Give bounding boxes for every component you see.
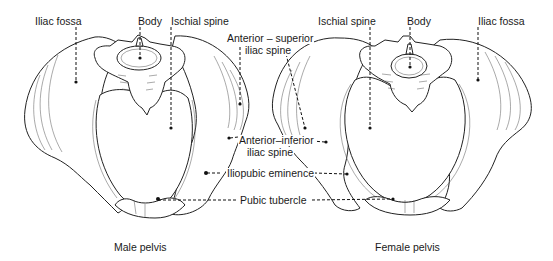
female-pelvis-drawing (272, 36, 531, 215)
female-iliac-fossa-label: Iliac fossa (477, 16, 526, 27)
female-pelvis-caption: Female pelvis (375, 241, 440, 253)
pubic-tubercle-label: Pubic tubercle (239, 195, 308, 206)
anterior-inferior-iliac-spine-label-line1: Anterior–inferior (238, 135, 315, 146)
anterior-inferior-iliac-spine-label-line2: iliac spine (246, 147, 294, 158)
female-body-label: Body (406, 16, 432, 27)
female-ischial-spine-label: Ischial spine (317, 16, 377, 27)
pelvis-diagram: Iliac fossa Body Ischial spine Anterior … (0, 0, 553, 261)
male-ischial-spine-label: Ischial spine (170, 16, 230, 27)
male-body-label: Body (137, 16, 163, 27)
iliopubic-eminence-label: Iliopubic eminence (226, 168, 315, 179)
male-iliac-fossa-label: Iliac fossa (34, 16, 83, 27)
anterior-superior-iliac-spine-label-line2: iliac spine (244, 45, 292, 56)
male-pelvis-caption: Male pelvis (114, 241, 167, 253)
male-pelvis-drawing (25, 35, 249, 218)
anterior-superior-iliac-spine-label-line1: Anterior – superior (226, 33, 314, 44)
